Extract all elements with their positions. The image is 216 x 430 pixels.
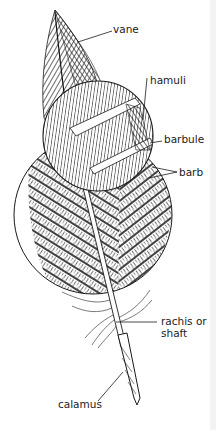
label-vane: vane xyxy=(113,23,139,35)
calamus-leader xyxy=(98,372,123,401)
label-rachis-line1: rachis or xyxy=(161,315,207,327)
label-hamuli: hamuli xyxy=(150,74,186,86)
label-barb: barb xyxy=(179,166,203,178)
calamus xyxy=(118,333,140,405)
vane-leader xyxy=(78,31,112,42)
feather-illustration xyxy=(0,0,216,430)
downy-barbs xyxy=(62,290,152,348)
label-calamus: calamus xyxy=(58,398,102,410)
label-rachis-line2: shaft xyxy=(161,327,187,339)
label-barbule: barbule xyxy=(164,133,204,145)
